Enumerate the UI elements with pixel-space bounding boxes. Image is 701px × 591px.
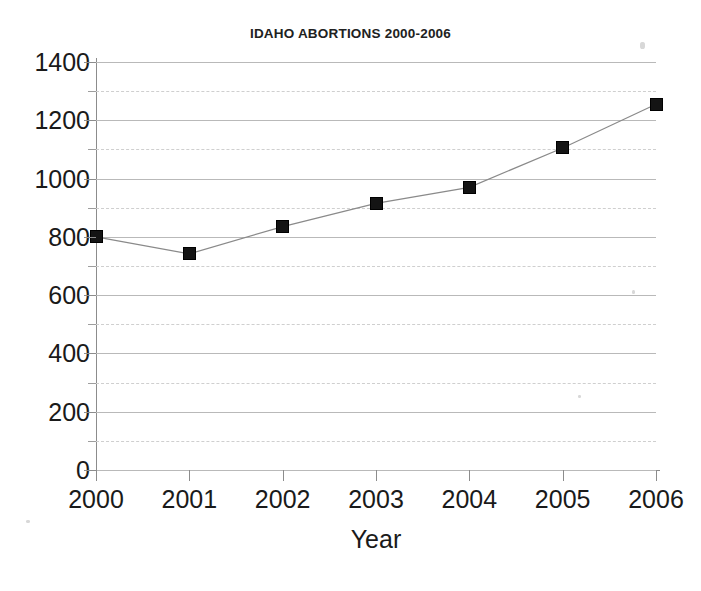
scan-speck [578,395,581,398]
y-tick-major [84,353,96,354]
y-tick-major [84,62,96,63]
data-point [463,181,476,194]
y-tick-minor [88,441,96,442]
scan-speck [26,520,30,523]
y-tick-minor [88,91,96,92]
data-point [650,98,663,111]
y-tick-major [84,237,96,238]
y-tick-major [84,120,96,121]
y-tick-major [84,295,96,296]
y-tick-minor [88,383,96,384]
x-tick [469,470,470,481]
scan-speck [632,290,635,294]
y-tick-major [84,412,96,413]
y-tick-major [84,179,96,180]
y-tick-minor [88,266,96,267]
x-axis-tick-label: 2006 [601,487,701,512]
line-chart: IDAHO ABORTIONS 2000-2006 02004006008001… [0,0,701,591]
data-point [183,247,196,260]
scan-speck [640,42,645,49]
x-axis-title: Year [96,525,656,554]
data-point [276,220,289,233]
chart-title: IDAHO ABORTIONS 2000-2006 [0,26,701,41]
y-tick-minor [88,208,96,209]
x-tick [563,470,564,481]
data-point [370,197,383,210]
x-tick [376,470,377,481]
series-line [96,62,656,470]
x-tick [96,470,97,481]
x-tick [189,470,190,481]
y-tick-major [84,470,96,471]
y-tick-minor [88,324,96,325]
plot-area [96,62,656,470]
x-tick [283,470,284,481]
data-point [556,141,569,154]
x-tick [656,470,657,481]
y-tick-minor [88,149,96,150]
